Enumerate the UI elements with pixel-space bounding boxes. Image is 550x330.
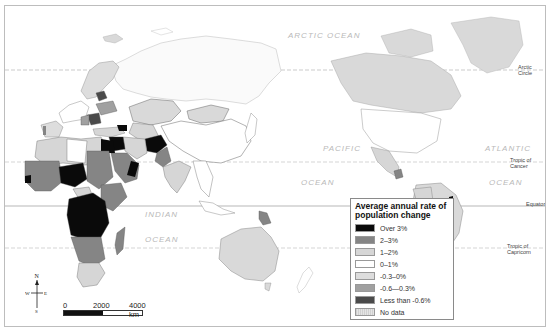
indian-label: INDIAN (145, 210, 178, 219)
legend-swatch (355, 248, 375, 256)
arctic-circle-label: Arctic Circle (518, 64, 545, 76)
legend-swatch (355, 224, 375, 232)
legend-swatch (355, 284, 375, 292)
world-map (5, 6, 545, 326)
legend-item: -0.3–0% (355, 270, 449, 282)
pacific-label: PACIFIC (323, 144, 361, 153)
legend-swatch (355, 272, 375, 280)
legend-swatch (355, 308, 375, 316)
population-change-map: ARCTIC OCEAN PACIFIC OCEAN ATLANTIC OCEA… (4, 5, 546, 327)
legend-item: 1–2% (355, 246, 449, 258)
legend-item: Over 3% (355, 222, 449, 234)
legend-item: No data (355, 306, 449, 318)
atlantic-ocean-label: OCEAN (489, 178, 522, 187)
legend-item: Less than -0.6% (355, 294, 449, 306)
svg-text:W: W (25, 291, 30, 296)
pacific-ocean-label: OCEAN (301, 178, 334, 187)
svg-text:N: N (35, 273, 40, 279)
legend-title: Average annual rate of population change (355, 202, 449, 220)
legend-swatch (355, 296, 375, 304)
legend-item: -0.6—0.3% (355, 282, 449, 294)
arctic-ocean-label: ARCTIC OCEAN (288, 31, 360, 40)
legend-item: 2–3% (355, 234, 449, 246)
compass-rose-icon: N W E S (25, 272, 49, 312)
legend: Average annual rate of population change… (350, 198, 454, 320)
equator-label: Equator (526, 201, 545, 207)
svg-text:E: E (44, 291, 47, 296)
tropic-capricorn-label: Tropic of Capricorn (507, 243, 545, 255)
atlantic-label: ATLANTIC (485, 144, 531, 153)
tropic-cancer-label: Tropic of Cancer (510, 157, 545, 169)
scale-bar: 0 2000 4000 km (63, 301, 143, 316)
legend-item: 0–1% (355, 258, 449, 270)
svg-text:S: S (35, 309, 38, 314)
indian-ocean-label: OCEAN (145, 235, 178, 244)
legend-swatch (355, 260, 375, 268)
legend-swatch (355, 236, 375, 244)
